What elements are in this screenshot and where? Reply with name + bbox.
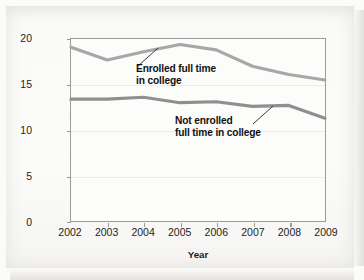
chart-figure: Percentage using in past month 20 15 10 … [0, 0, 364, 280]
y-tick-mark-0 [67, 222, 71, 223]
page-shadow-bottom [10, 268, 354, 280]
x-tick-mark-2008 [290, 223, 291, 227]
page-shadow-right [352, 10, 364, 266]
y-tick-label-5: 5 [0, 170, 32, 182]
x-tick-mark-2003 [108, 223, 109, 227]
annotation-not-enrolled-full-time: Not enrolled full time in college [175, 115, 261, 140]
y-tick-label-15: 15 [0, 78, 32, 90]
x-tick-mark-2007 [254, 223, 255, 227]
x-tick-mark-2004 [144, 223, 145, 227]
annotation-enrolled-full-time: Enrolled full time in college [136, 63, 216, 88]
x-axis-label: Year [70, 249, 326, 260]
y-tick-label-0: 0 [0, 216, 32, 228]
y-tick-label-10: 10 [0, 124, 32, 136]
x-tick-mark-2006 [217, 223, 218, 227]
x-tick-mark-2005 [181, 223, 182, 227]
y-tick-label-20: 20 [0, 32, 32, 44]
x-tick-label-2009: 2009 [303, 226, 349, 238]
